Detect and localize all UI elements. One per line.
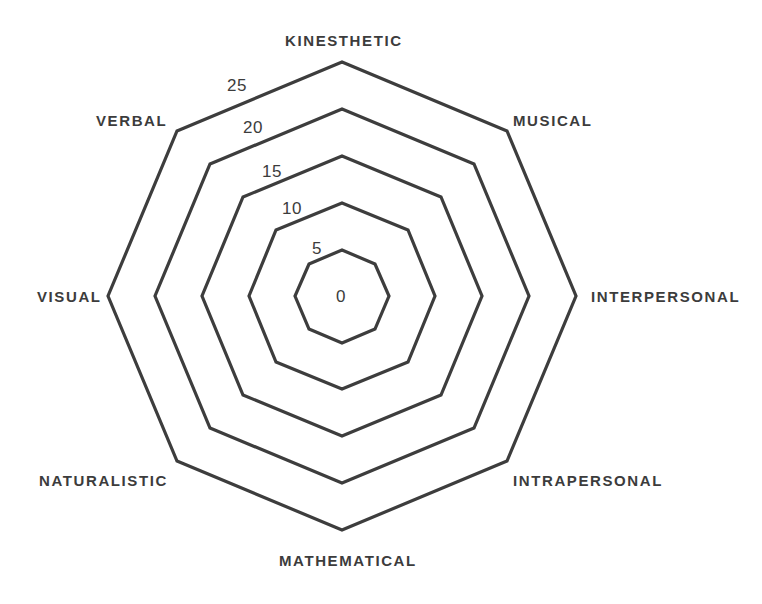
axis-label-kinesthetic: KINESTHETIC	[285, 33, 403, 48]
radial-tick-10: 10	[282, 200, 302, 217]
radial-tick-25: 25	[227, 77, 247, 94]
axis-label-intrapersonal: INTRAPERSONAL	[513, 473, 663, 488]
axis-label-naturalistic: NATURALISTIC	[39, 473, 168, 488]
axis-label-musical: MUSICAL	[513, 113, 593, 128]
radial-tick-5: 5	[312, 240, 322, 257]
axis-label-interpersonal: INTERPERSONAL	[591, 289, 740, 304]
radial-tick-20: 20	[243, 119, 263, 136]
axis-label-verbal: VERBAL	[96, 113, 167, 128]
radial-tick-15: 15	[262, 163, 282, 180]
axis-label-visual: VISUAL	[37, 289, 102, 304]
radar-chart: KINESTHETIC MUSICAL INTERPERSONAL INTRAP…	[0, 0, 762, 604]
axis-label-mathematical: MATHEMATICAL	[279, 553, 417, 568]
radial-tick-0: 0	[336, 288, 346, 305]
